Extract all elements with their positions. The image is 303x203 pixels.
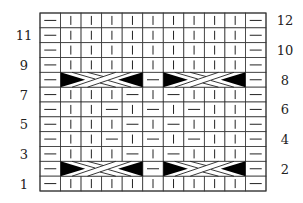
knit-stitch-cell <box>102 28 123 43</box>
knit-stitch-cell <box>204 102 225 117</box>
purl-stitch-cell <box>122 87 143 102</box>
knitting-chart: 135791124681012 <box>0 0 303 203</box>
purl-stitch-cell <box>245 13 266 28</box>
purl-stitch-cell <box>102 102 123 117</box>
purl-stitch-cell <box>245 28 266 43</box>
purl-stitch-cell <box>143 72 164 87</box>
knit-stitch-cell <box>204 13 225 28</box>
knit-stitch-cell <box>81 117 102 132</box>
knit-stitch-cell <box>102 87 123 102</box>
row-number-label: 7 <box>20 88 28 103</box>
knit-stitch-cell <box>204 43 225 58</box>
knit-stitch-cell <box>61 58 82 73</box>
knit-stitch-cell <box>184 28 205 43</box>
knit-stitch-cell <box>163 132 184 147</box>
knit-stitch-cell <box>81 176 102 191</box>
purl-stitch-cell <box>40 43 61 58</box>
knit-stitch-cell <box>102 147 123 162</box>
knit-stitch-cell <box>81 43 102 58</box>
row-number-label: 11 <box>16 28 33 43</box>
purl-stitch-cell <box>245 147 266 162</box>
purl-stitch-cell <box>40 58 61 73</box>
purl-stitch-cell <box>184 102 205 117</box>
knit-stitch-cell <box>61 43 82 58</box>
knit-stitch-cell <box>163 102 184 117</box>
knit-stitch-cell <box>184 147 205 162</box>
knit-stitch-cell <box>204 147 225 162</box>
purl-stitch-cell <box>40 147 61 162</box>
knit-stitch-cell <box>122 176 143 191</box>
knit-stitch-cell <box>184 117 205 132</box>
knit-stitch-cell <box>81 28 102 43</box>
purl-stitch-cell <box>40 176 61 191</box>
knit-stitch-cell <box>225 13 246 28</box>
knit-stitch-cell <box>122 28 143 43</box>
knit-stitch-cell <box>61 102 82 117</box>
cable-cross-symbol <box>61 72 143 87</box>
purl-stitch-cell <box>245 72 266 87</box>
knit-stitch-cell <box>204 87 225 102</box>
knit-stitch-cell <box>225 28 246 43</box>
knit-stitch-cell <box>122 13 143 28</box>
purl-stitch-cell <box>143 102 164 117</box>
row-number-label: 1 <box>20 177 28 192</box>
knit-stitch-cell <box>81 87 102 102</box>
knit-stitch-cell <box>204 28 225 43</box>
knit-stitch-cell <box>143 147 164 162</box>
row-number-label: 8 <box>281 73 289 88</box>
knit-stitch-cell <box>163 176 184 191</box>
purl-stitch-cell <box>122 147 143 162</box>
knit-stitch-cell <box>225 132 246 147</box>
purl-stitch-cell <box>40 132 61 147</box>
row-number-label: 4 <box>281 132 289 147</box>
knit-stitch-cell <box>225 117 246 132</box>
knit-stitch-cell <box>102 58 123 73</box>
knit-stitch-cell <box>61 147 82 162</box>
knit-stitch-cell <box>225 176 246 191</box>
knit-stitch-cell <box>81 132 102 147</box>
purl-stitch-cell <box>163 117 184 132</box>
purl-stitch-cell <box>163 87 184 102</box>
knit-stitch-cell <box>204 117 225 132</box>
knit-stitch-cell <box>143 176 164 191</box>
knit-stitch-cell <box>225 58 246 73</box>
knit-stitch-cell <box>61 132 82 147</box>
purl-stitch-cell <box>40 28 61 43</box>
purl-stitch-cell <box>102 132 123 147</box>
purl-stitch-cell <box>245 132 266 147</box>
cable-cross-symbol <box>61 161 143 176</box>
row-number-label: 5 <box>20 117 28 132</box>
cable-cross-symbol <box>163 72 245 87</box>
purl-stitch-cell <box>245 117 266 132</box>
knit-stitch-cell <box>61 13 82 28</box>
knit-stitch-cell <box>163 13 184 28</box>
knit-stitch-cell <box>184 43 205 58</box>
knit-stitch-cell <box>61 28 82 43</box>
knit-stitch-cell <box>122 43 143 58</box>
knit-stitch-cell <box>81 58 102 73</box>
knit-stitch-cell <box>184 58 205 73</box>
row-number-label: 10 <box>277 43 294 58</box>
knit-stitch-cell <box>163 43 184 58</box>
knit-stitch-cell <box>102 13 123 28</box>
purl-stitch-cell <box>163 147 184 162</box>
knit-stitch-cell <box>61 176 82 191</box>
purl-stitch-cell <box>40 13 61 28</box>
purl-stitch-cell <box>245 102 266 117</box>
knit-stitch-cell <box>143 13 164 28</box>
knit-stitch-cell <box>184 13 205 28</box>
knit-stitch-cell <box>122 102 143 117</box>
row-number-label: 9 <box>20 58 28 73</box>
knit-stitch-cell <box>81 102 102 117</box>
row-number-label: 6 <box>281 102 289 117</box>
knit-stitch-cell <box>225 87 246 102</box>
knit-stitch-cell <box>143 117 164 132</box>
knit-stitch-cell <box>143 28 164 43</box>
purl-stitch-cell <box>40 117 61 132</box>
cable-cross-symbol <box>163 161 245 176</box>
knit-stitch-cell <box>122 132 143 147</box>
row-number-label: 3 <box>20 147 28 162</box>
purl-stitch-cell <box>143 161 164 176</box>
knit-stitch-cell <box>204 132 225 147</box>
purl-stitch-cell <box>245 161 266 176</box>
